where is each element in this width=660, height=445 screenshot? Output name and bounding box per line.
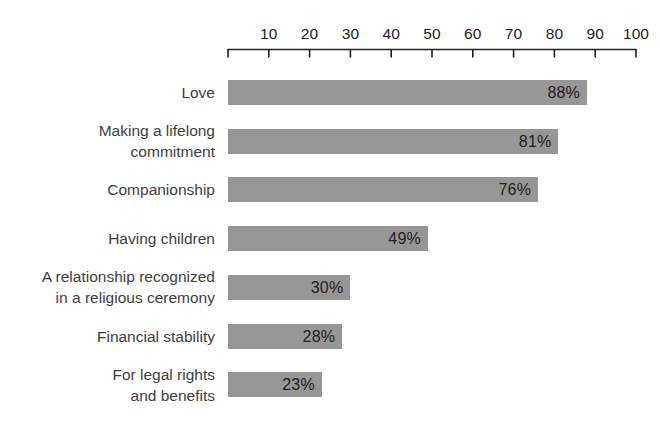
bar-track: 49%: [228, 226, 636, 251]
chart-row: For legal rights and benefits23%: [0, 372, 660, 397]
category-label: A relationship recognized in a religious…: [0, 266, 215, 308]
bar-track: 88%: [228, 80, 636, 105]
bar-track: 30%: [228, 275, 636, 300]
chart-row: Love88%: [0, 80, 660, 105]
chart-row: Making a lifelong commitment81%: [0, 129, 660, 154]
category-label: Making a lifelong commitment: [0, 120, 215, 162]
bar-value-label: 81%: [228, 129, 551, 154]
bar-value-label: 23%: [228, 372, 315, 397]
chart-row: Companionship76%: [0, 177, 660, 202]
bar-track: 76%: [228, 177, 636, 202]
bar-value-label: 76%: [228, 177, 531, 202]
chart-row: Having children49%: [0, 226, 660, 251]
chart-row: Financial stability28%: [0, 324, 660, 349]
chart-row: A relationship recognized in a religious…: [0, 275, 660, 300]
bar-track: 28%: [228, 324, 636, 349]
category-label: Companionship: [0, 179, 215, 200]
category-label: Love: [0, 82, 215, 103]
bar-track: 23%: [228, 372, 636, 397]
bar-value-label: 28%: [228, 324, 335, 349]
category-label: For legal rights and benefits: [0, 364, 215, 406]
bar-track: 81%: [228, 129, 636, 154]
chart-rows: Love88%Making a lifelong commitment81%Co…: [0, 0, 660, 445]
bar-value-label: 49%: [228, 226, 421, 251]
horizontal-bar-chart: 102030405060708090100 Love88%Making a li…: [0, 0, 660, 445]
category-label: Having children: [0, 228, 215, 249]
category-label: Financial stability: [0, 326, 215, 347]
bar-value-label: 30%: [228, 275, 343, 300]
bar-value-label: 88%: [228, 80, 580, 105]
